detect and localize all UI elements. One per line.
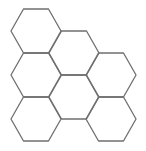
hexagon-diagram (0, 0, 146, 151)
hex-col1-row1 (49, 75, 99, 119)
hex-col2-row1 (86, 97, 136, 141)
hex-col2-row0 (86, 53, 136, 97)
hex-col0-row0 (11, 9, 61, 53)
hex-col0-row2 (11, 97, 61, 141)
hex-col0-row1 (11, 53, 61, 97)
hex-col1-row0 (49, 31, 99, 75)
